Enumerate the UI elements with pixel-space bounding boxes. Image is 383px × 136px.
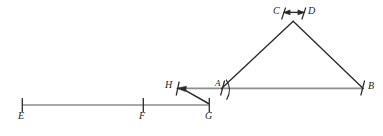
point-label-C: C <box>273 6 280 16</box>
gray-segments-group <box>22 88 363 105</box>
point-label-D: D <box>308 6 315 16</box>
segment-apex-B-right-leg <box>293 21 363 88</box>
segment-GH-connector <box>184 90 209 104</box>
point-label-F: F <box>139 111 145 121</box>
geometry-diagram-svg <box>0 0 383 136</box>
point-label-E: E <box>18 111 24 121</box>
triangle-legs-group <box>222 21 364 88</box>
geometry-figure-canvas: E F G H A B C D <box>0 0 383 136</box>
tick-apex-right <box>302 8 306 20</box>
tick-apex-left <box>282 8 286 20</box>
point-label-H: H <box>165 80 172 90</box>
segment-A-apex-left-leg <box>222 21 294 88</box>
apex-marking-group <box>282 8 306 20</box>
point-label-G: G <box>205 111 212 121</box>
arc-angle-A <box>226 80 229 100</box>
point-label-A: A <box>215 78 221 88</box>
point-label-B: B <box>368 81 374 91</box>
